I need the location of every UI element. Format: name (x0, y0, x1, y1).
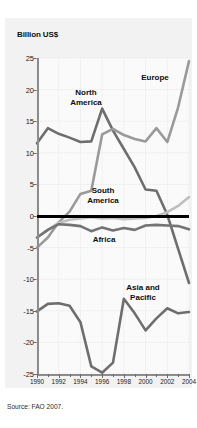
y-tick-label: -10 (12, 275, 34, 284)
y-tick-label: -20 (12, 338, 34, 347)
x-tick-mark (80, 374, 81, 378)
x-tick-mark (59, 374, 60, 378)
series-line (37, 61, 189, 247)
x-tick-label: 1996 (95, 378, 109, 385)
x-tick-mark-minor (178, 374, 179, 377)
x-tick-mark (167, 374, 168, 378)
x-tick-label: 2004 (182, 378, 196, 385)
source-note: Source: FAO 2007. (7, 403, 63, 410)
x-tick-mark-minor (48, 374, 49, 377)
x-tick-label: 1990 (30, 378, 44, 385)
zero-reference-line (37, 215, 189, 218)
y-tick-label: 15 (12, 117, 34, 126)
series-label: Asia and Pacific (126, 283, 159, 303)
series-label: Europe (141, 73, 169, 83)
y-tick-label: 10 (12, 148, 34, 157)
y-tick-label: 25 (12, 54, 34, 63)
y-tick-label: -5 (12, 243, 34, 252)
y-tick-label: 5 (12, 180, 34, 189)
x-tick-label: 1994 (73, 378, 87, 385)
x-tick-label: 1998 (117, 378, 131, 385)
x-tick-label: 2000 (138, 378, 152, 385)
y-tick-label: 20 (12, 85, 34, 94)
series-line (37, 299, 189, 373)
y-tick-label: 0 (12, 212, 34, 221)
y-tick-label: -15 (12, 306, 34, 315)
y-axis-title: Billion US$ (17, 30, 58, 39)
x-tick-mark (124, 374, 125, 378)
y-axis-tick-labels: 2520151050-5-10-15-20-25 (10, 58, 34, 374)
x-tick-label: 1992 (52, 378, 66, 385)
x-tick-mark (189, 374, 190, 378)
chart-figure: Billion US$ 2520151050-5-10-15-20-25 199… (0, 0, 197, 428)
series-label: North America (70, 88, 102, 108)
x-tick-mark-minor (113, 374, 114, 377)
series-label: Africa (93, 235, 116, 245)
x-tick-mark (102, 374, 103, 378)
x-tick-mark (146, 374, 147, 378)
x-tick-mark-minor (156, 374, 157, 377)
x-tick-mark-minor (91, 374, 92, 377)
series-label: South America (87, 186, 119, 206)
x-tick-mark (37, 374, 38, 378)
x-tick-label: 2002 (160, 378, 174, 385)
x-tick-mark-minor (135, 374, 136, 377)
x-tick-mark-minor (70, 374, 71, 377)
